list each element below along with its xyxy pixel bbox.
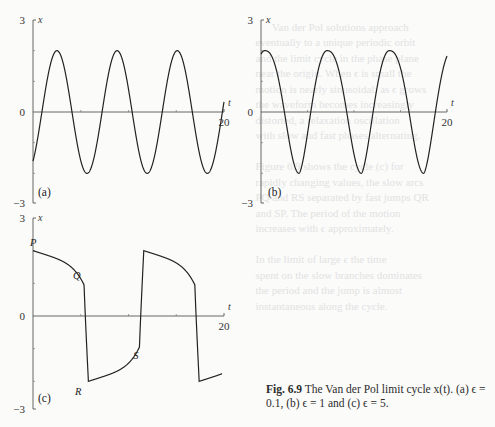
panel-b: 30−320xt(b) bbox=[241, 14, 454, 209]
svg-text:0: 0 bbox=[20, 310, 26, 322]
svg-text:0: 0 bbox=[248, 106, 254, 118]
svg-text:0: 0 bbox=[20, 106, 26, 118]
x-axis-label: t bbox=[228, 301, 231, 312]
panel-a: 30−320xt(a) bbox=[13, 14, 231, 209]
caption-label: Fig. 6.9 bbox=[266, 383, 302, 395]
svg-text:20: 20 bbox=[219, 320, 231, 332]
svg-text:−3: −3 bbox=[13, 403, 25, 415]
svg-text:3: 3 bbox=[20, 212, 26, 224]
svg-text:−3: −3 bbox=[241, 197, 253, 209]
panel-label: (a) bbox=[38, 186, 51, 199]
point-S: S bbox=[133, 350, 139, 361]
svg-text:3: 3 bbox=[20, 14, 26, 26]
panel-label: (b) bbox=[268, 186, 282, 199]
y-axis-label: x bbox=[265, 14, 271, 25]
figure-panels: 30−320xt(a)30−320xt(b)30−320xt(c)PQRS bbox=[0, 0, 495, 427]
y-axis-label: x bbox=[37, 14, 43, 25]
figure-caption: Fig. 6.9 The Van der Pol limit cycle x(t… bbox=[266, 382, 494, 410]
svg-text:3: 3 bbox=[248, 14, 254, 26]
svg-text:20: 20 bbox=[442, 116, 454, 128]
point-P: P bbox=[29, 237, 37, 248]
x-axis-label: t bbox=[228, 97, 231, 108]
y-axis-label: x bbox=[37, 212, 43, 223]
panel-label: (c) bbox=[38, 392, 51, 405]
x-axis-label: t bbox=[451, 97, 454, 108]
point-Q: Q bbox=[73, 270, 81, 281]
point-R: R bbox=[74, 386, 82, 397]
svg-text:−3: −3 bbox=[13, 197, 25, 209]
panel-c: 30−320xt(c)PQRS bbox=[13, 212, 231, 415]
